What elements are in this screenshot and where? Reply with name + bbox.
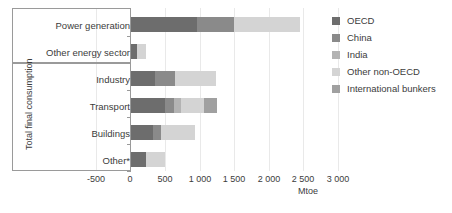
x-tick-label: 1 500 xyxy=(223,174,246,184)
category-label-other: Other* xyxy=(103,155,130,166)
x-tick-label: 500 xyxy=(157,174,172,184)
x-tick-label: -500 xyxy=(87,174,105,184)
legend-swatch-icon xyxy=(332,68,340,76)
gridline-1500 xyxy=(234,8,235,171)
bar-other-energy-sector xyxy=(131,44,147,59)
gridline-2500 xyxy=(303,8,304,171)
legend-swatch-icon xyxy=(332,17,340,25)
legend: OECD China India Other non-OECD Internat… xyxy=(332,12,436,97)
category-tick xyxy=(127,144,131,145)
stacked-bar-chart: Total final consumption Power generation… xyxy=(0,0,452,213)
bar-power-generation xyxy=(131,17,301,32)
gridline-500 xyxy=(165,8,166,171)
bar-segment-china xyxy=(197,17,234,32)
x-tick-label: 0 xyxy=(127,174,132,184)
bar-segment-oecd xyxy=(131,17,197,32)
bar-segment-oecd xyxy=(131,98,166,113)
bar-segment-other-non-oecd xyxy=(161,125,195,140)
category-tick xyxy=(127,171,131,172)
gridline-1000 xyxy=(200,8,201,171)
legend-label: China xyxy=(347,32,372,43)
bar-segment-oecd xyxy=(131,152,147,167)
legend-item-international-bunkers: International bunkers xyxy=(332,80,436,97)
bar-segment-china xyxy=(155,71,176,86)
category-label-buildings: Buildings xyxy=(91,128,130,139)
legend-label: OECD xyxy=(347,15,374,26)
x-tick-label: 2 500 xyxy=(292,174,315,184)
category-tick xyxy=(127,90,131,91)
legend-swatch-icon xyxy=(332,34,340,42)
legend-item-india: India xyxy=(332,46,436,63)
category-label-other-energy-sector: Other energy sector xyxy=(46,47,130,58)
gridline-2000 xyxy=(269,8,270,171)
x-tick-label: 1 000 xyxy=(189,174,212,184)
bar-buildings xyxy=(131,125,195,140)
bar-transport xyxy=(131,98,218,113)
bar-segment-oecd xyxy=(131,71,155,86)
bar-segment-international-bunkers xyxy=(204,98,217,113)
legend-item-other-non-oecd: Other non-OECD xyxy=(332,63,436,80)
bar-segment-other-non-oecd xyxy=(181,98,204,113)
category-label-transport: Transport xyxy=(90,101,130,112)
bar-industry xyxy=(131,71,216,86)
category-tick xyxy=(127,36,131,37)
group-axis-title: Total final consumption xyxy=(24,66,34,150)
bar-segment-other-non-oecd xyxy=(146,152,165,167)
bar-segment-other-non-oecd xyxy=(234,17,300,32)
legend-label: Other non-OECD xyxy=(347,66,420,77)
legend-swatch-icon xyxy=(332,51,340,59)
bar-segment-other-non-oecd xyxy=(175,71,215,86)
legend-swatch-icon xyxy=(332,85,340,93)
legend-item-china: China xyxy=(332,29,436,46)
category-tick xyxy=(127,63,131,64)
bar-segment-oecd xyxy=(131,125,154,140)
x-axis-unit-label: Mtoe xyxy=(298,186,318,196)
legend-label: International bunkers xyxy=(347,83,436,94)
legend-item-oecd: OECD xyxy=(332,12,436,29)
bar-segment-china xyxy=(165,98,174,113)
category-label-industry: Industry xyxy=(96,74,130,85)
category-label-power-generation: Power generation xyxy=(56,20,130,31)
x-tick-label: 3 000 xyxy=(327,174,350,184)
bar-segment-other-non-oecd xyxy=(137,44,146,59)
x-tick-label: 2 000 xyxy=(258,174,281,184)
legend-label: India xyxy=(347,49,368,60)
bar-other xyxy=(131,152,166,167)
bar-segment-china xyxy=(153,125,161,140)
bar-segment-india xyxy=(174,98,181,113)
category-tick xyxy=(127,117,131,118)
